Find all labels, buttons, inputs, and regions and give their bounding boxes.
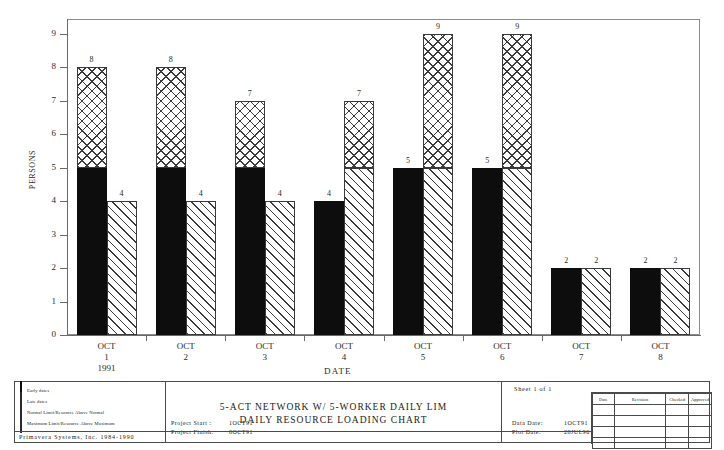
limit-marker-icon — [20, 415, 22, 424]
chart-bar — [156, 67, 186, 335]
revision-cell[interactable] — [689, 427, 712, 438]
x-category-label: OCT11991 — [67, 341, 147, 374]
x-category-line: OCT — [225, 341, 305, 352]
x-category-line: 7 — [541, 352, 621, 363]
chart-bar — [393, 168, 423, 335]
x-axis-title: DATE — [324, 366, 352, 376]
y-tick — [60, 67, 68, 68]
y-tick-label: 1 — [38, 297, 56, 306]
bar-segment-late — [344, 168, 374, 335]
bar-segment-early — [472, 168, 502, 335]
y-tick — [60, 201, 68, 202]
revision-cell[interactable] — [593, 438, 615, 449]
legend-divider — [15, 431, 166, 432]
revision-cell[interactable] — [614, 416, 666, 427]
legend-item: Normal Limit/Resource Above Normal — [20, 407, 104, 418]
limit-marker-icon — [20, 404, 22, 413]
x-category-line: 2 — [146, 352, 226, 363]
y-tick — [60, 168, 68, 169]
legend-item-label: Normal Limit/Resource Above Normal — [27, 410, 104, 416]
chart-bar — [423, 34, 453, 335]
x-category-line: 4 — [304, 352, 384, 363]
x-category-line: OCT — [462, 341, 542, 352]
x-category-label: OCT6 — [462, 341, 542, 363]
y-tick-label: 2 — [38, 263, 56, 272]
y-tick-label: 5 — [38, 163, 56, 172]
revision-cell[interactable] — [689, 438, 712, 449]
bar-segment-above-normal — [235, 101, 265, 168]
y-tick — [60, 335, 68, 336]
y-tick — [60, 235, 68, 236]
x-category-line: OCT — [383, 341, 463, 352]
x-category-line: OCT — [541, 341, 621, 352]
x-category-label: OCT7 — [541, 341, 621, 363]
revision-column-header: Date — [593, 394, 615, 405]
bar-segment-above-normal — [77, 67, 107, 167]
revision-cell[interactable] — [666, 427, 689, 438]
chart-bar — [472, 168, 502, 335]
x-category-line: 8 — [620, 352, 700, 363]
x-category-line: 3 — [225, 352, 305, 363]
revision-row[interactable] — [593, 438, 712, 449]
revision-cell[interactable] — [593, 405, 615, 416]
bar-value-label: 5 — [388, 157, 428, 165]
legend-item-label: Late dates — [27, 399, 47, 405]
revision-cell[interactable] — [689, 405, 712, 416]
legend-item: Maximum Limit/Resource Above Maximum — [20, 418, 115, 429]
chart-bar — [630, 268, 660, 335]
revision-cell[interactable] — [666, 416, 689, 427]
y-tick-label: 7 — [38, 96, 56, 105]
y-tick — [60, 101, 68, 102]
legend-item-label: Maximum Limit/Resource Above Maximum — [27, 421, 115, 427]
x-category-label: OCT2 — [146, 341, 226, 363]
chart-bar — [502, 34, 532, 335]
bar-segment-early — [314, 201, 344, 335]
legend: Early datesLate datesNormal Limit/Resour… — [15, 382, 166, 442]
bar-segment-above-normal — [156, 67, 186, 167]
x-category-label: OCT8 — [620, 341, 700, 363]
dates-divider — [502, 431, 592, 432]
revision-table-header-row: DateRevisionCheckedApproved — [593, 394, 712, 405]
revision-column-header: Revision — [614, 394, 666, 405]
revision-cell[interactable] — [593, 427, 615, 438]
revision-cell[interactable] — [614, 405, 666, 416]
x-category-line: OCT — [67, 341, 147, 352]
revision-cell[interactable] — [689, 416, 712, 427]
x-category-line: OCT — [146, 341, 226, 352]
revision-column-header: Checked — [666, 394, 689, 405]
bar-segment-late — [107, 201, 137, 335]
y-tick-label: 0 — [38, 330, 56, 339]
title-block: Early datesLate datesNormal Limit/Resour… — [14, 381, 710, 443]
revision-cell[interactable] — [666, 438, 689, 449]
x-category-label: OCT4 — [304, 341, 384, 363]
revision-row[interactable] — [593, 427, 712, 438]
revision-cell[interactable] — [666, 405, 689, 416]
legend-swatch-wrap — [20, 415, 27, 433]
bar-segment-late — [581, 268, 611, 335]
y-tick — [60, 134, 68, 135]
chart-bar — [551, 268, 581, 335]
x-category-line: 6 — [462, 352, 542, 363]
revision-cell[interactable] — [593, 416, 615, 427]
bar-value-label: 9 — [497, 23, 537, 31]
data-date-label: Data Date: — [512, 420, 564, 427]
revision-row[interactable] — [593, 416, 712, 427]
revision-cell[interactable] — [614, 438, 666, 449]
chart-title-line-1: 5-ACT NETWORK W/ 5-WORKER DAILY LIM — [166, 402, 501, 412]
data-date-row: Data Date:1OCT91 — [512, 420, 588, 427]
chart-bar — [107, 201, 137, 335]
revision-cell[interactable] — [614, 427, 666, 438]
project-info: 5-ACT NETWORK W/ 5-WORKER DAILY LIM DAIL… — [166, 382, 501, 442]
chart-bar — [314, 201, 344, 335]
y-tick-label: 3 — [38, 230, 56, 239]
chart-bar — [265, 201, 295, 335]
project-finish-value: 8OCT91 — [229, 429, 253, 435]
revision-table-body — [593, 405, 712, 449]
project-start-label: Project Start : — [171, 420, 229, 427]
chart-bar — [344, 101, 374, 335]
bar-segment-late — [423, 168, 453, 335]
revision-table: DateRevisionCheckedApproved — [591, 392, 712, 444]
data-date-value: 1OCT91 — [564, 420, 588, 426]
bar-value-label: 2 — [576, 257, 616, 265]
revision-row[interactable] — [593, 405, 712, 416]
